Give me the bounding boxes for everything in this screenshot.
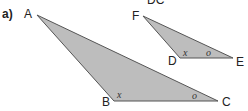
similar-triangles-diagram: DC a) A B C x o F D E x o bbox=[0, 0, 248, 111]
part-label: a) bbox=[2, 7, 13, 21]
angle-label-d: x bbox=[182, 47, 188, 58]
angle-label-b: x bbox=[116, 89, 122, 100]
vertex-label-c: C bbox=[222, 95, 231, 109]
vertex-label-a: A bbox=[24, 7, 32, 21]
vertex-label-b: B bbox=[102, 95, 110, 109]
angle-label-c: o bbox=[192, 90, 197, 101]
vertex-label-f: F bbox=[132, 9, 139, 23]
triangle-def bbox=[143, 16, 233, 58]
angle-label-e: o bbox=[206, 47, 211, 58]
vertex-label-e: E bbox=[236, 55, 244, 69]
top-cut-text: DC bbox=[147, 0, 165, 7]
vertex-label-d: D bbox=[168, 54, 177, 68]
